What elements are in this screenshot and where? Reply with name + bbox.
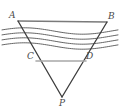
- figure-canvas: [0, 0, 120, 111]
- vertex-label-b: B: [108, 12, 115, 21]
- geometry-figure: A B C D P: [0, 0, 120, 111]
- vertex-label-c: C: [27, 52, 34, 61]
- wave-line-4: [2, 43, 118, 49]
- segment-ap: [18, 21, 62, 97]
- vertex-label-a: A: [9, 11, 16, 20]
- vertex-label-p: P: [59, 99, 65, 108]
- segment-ab: [18, 21, 107, 22]
- wave-lines: [2, 28, 118, 49]
- vertex-label-d: D: [86, 52, 93, 61]
